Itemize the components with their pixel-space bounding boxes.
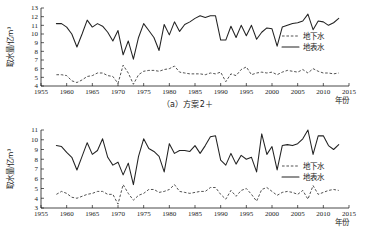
y-tick-label: 10 (31, 136, 39, 144)
x-tick-label: 2010 (316, 88, 331, 96)
chart-a-caption: （a）方案2＋ (0, 98, 375, 109)
x-tick-label: 2000 (265, 88, 280, 96)
chart-b-canvas: 3456789101119551960196519701975198019851… (0, 122, 375, 244)
y-tick-label: 4 (35, 195, 39, 203)
y-tick-label: 8 (35, 156, 39, 164)
legend-label-地下水: 地下水 (303, 161, 325, 171)
y-tick-label: 9 (35, 146, 39, 154)
chart-panel-b: 3456789101119551960196519701975198019851… (0, 122, 375, 244)
x-tick-label: 2015 (342, 210, 357, 218)
x-tick-label: 1995 (239, 88, 254, 96)
x-tick-label: 1980 (162, 88, 177, 96)
x-tick-label: 1990 (214, 210, 229, 218)
x-tick-label: 1975 (137, 88, 152, 96)
x-tick-label: 2010 (316, 210, 331, 218)
x-tick-label: 1960 (60, 210, 75, 218)
y-tick-label: 8 (35, 48, 39, 56)
y-tick-label: 11 (31, 22, 38, 30)
y-tick-label: 10 (31, 30, 39, 38)
y-tick-label: 5 (35, 74, 39, 82)
x-tick-label: 2005 (291, 210, 306, 218)
x-axis-title: 年份 (335, 217, 350, 227)
x-tick-label: 1970 (111, 210, 126, 218)
x-tick-label: 1990 (214, 88, 229, 96)
y-tick-label: 12 (31, 13, 39, 21)
x-tick-label: 1965 (85, 210, 100, 218)
y-axis-title: 取水量/亿m³ (5, 27, 15, 68)
y-tick-label: 13 (31, 4, 39, 12)
x-tick-label: 1985 (188, 210, 203, 218)
series-line-地表水 (56, 14, 338, 59)
y-tick-label: 11 (31, 126, 38, 134)
chart-panel-a: 4567891011121319551960196519701975198019… (0, 0, 375, 122)
series-line-地下水 (56, 185, 338, 205)
x-tick-label: 1955 (34, 210, 49, 218)
x-tick-label: 2005 (291, 88, 306, 96)
y-tick-label: 6 (35, 65, 39, 73)
legend-label-地表水: 地表水 (303, 172, 325, 182)
series-line-地表水 (56, 130, 338, 185)
x-tick-label: 1965 (85, 88, 100, 96)
x-tick-label: 1960 (60, 88, 75, 96)
x-tick-label: 1995 (239, 210, 254, 218)
x-tick-label: 2000 (265, 210, 280, 218)
y-tick-label: 7 (35, 56, 39, 64)
x-tick-label: 1955 (34, 88, 49, 96)
figure-water-withdrawal: 4567891011121319551960196519701975198019… (0, 0, 375, 245)
y-tick-label: 5 (35, 185, 39, 193)
y-axis-title: 取水量/亿m³ (5, 149, 15, 190)
y-tick-label: 6 (35, 175, 39, 183)
x-tick-label: 1970 (111, 88, 126, 96)
x-tick-label: 1980 (162, 210, 177, 218)
x-tick-label: 2015 (342, 88, 357, 96)
legend-label-地下水: 地下水 (303, 31, 325, 41)
x-tick-label: 1975 (137, 210, 152, 218)
x-tick-label: 1985 (188, 88, 203, 96)
series-line-地下水 (56, 65, 338, 84)
legend-label-地表水: 地表水 (303, 42, 325, 52)
y-tick-label: 7 (35, 165, 39, 173)
y-tick-label: 9 (35, 39, 39, 47)
